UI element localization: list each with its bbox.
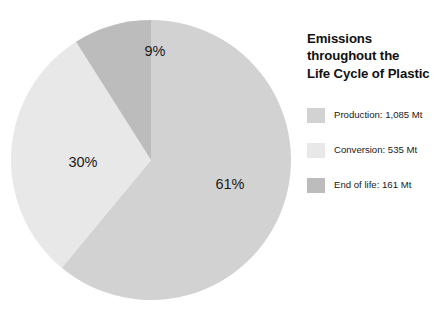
pie-chart-area: 61%30%9% — [8, 14, 296, 310]
legend-color-swatch — [307, 178, 325, 193]
legend-item[interactable]: Production: 1,085 Mt — [307, 106, 442, 124]
legend-item-label: Conversion: 535 Mt — [334, 145, 417, 155]
legend-item-label: End of life: 161 Mt — [334, 180, 411, 190]
pie-chart-svg: 61%30%9% — [8, 14, 296, 310]
chart-legend-panel: Emissions throughout the Life Cycle of P… — [307, 30, 442, 194]
legend-item[interactable]: End of life: 161 Mt — [307, 176, 442, 194]
legend-color-swatch — [307, 143, 325, 158]
legend-list: Production: 1,085 MtConversion: 535 MtEn… — [307, 106, 442, 194]
legend-item[interactable]: Conversion: 535 Mt — [307, 141, 442, 159]
pie-slice-percent-label: 61% — [215, 176, 244, 192]
pie-slice-percent-label: 30% — [68, 154, 97, 170]
legend-color-swatch — [307, 108, 325, 123]
pie-slice-group — [11, 20, 291, 300]
pie-chart-figure: 61%30%9% Emissions throughout the Life C… — [0, 0, 446, 327]
page-title: Emissions throughout the Life Cycle of P… — [307, 30, 442, 82]
pie-slice-percent-label: 9% — [145, 43, 166, 59]
legend-item-label: Production: 1,085 Mt — [334, 110, 423, 120]
